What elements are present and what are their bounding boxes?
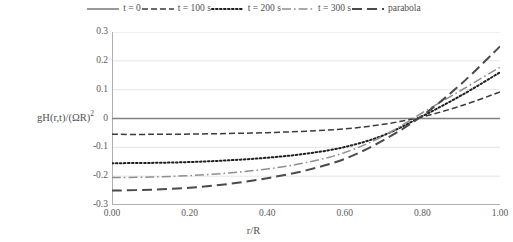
x-axis-tick-label: 0.60 bbox=[325, 209, 365, 219]
series-line-3 bbox=[112, 67, 500, 177]
x-axis-tick-label: 0.40 bbox=[247, 209, 287, 219]
x-axis-tick-label: 0.20 bbox=[170, 209, 210, 219]
series-line-1 bbox=[112, 92, 500, 134]
x-axis-tick-label: 1.00 bbox=[480, 209, 513, 219]
plot-svg bbox=[112, 32, 500, 205]
x-axis-tick-label: 0.00 bbox=[92, 209, 132, 219]
x-axis-tick-label: 0.80 bbox=[402, 209, 442, 219]
plot-area bbox=[112, 32, 500, 205]
x-axis-title: r/R bbox=[0, 225, 507, 236]
